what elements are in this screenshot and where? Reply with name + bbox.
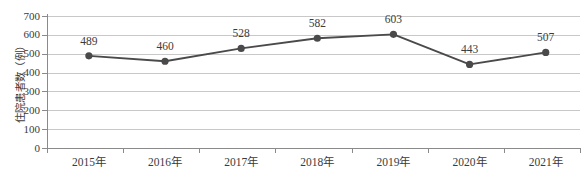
y-tick-200 (42, 110, 48, 111)
x-axis-label-2021年: 2021年 (511, 156, 581, 169)
x-tick-6 (504, 148, 505, 153)
gridline-0 (47, 148, 580, 149)
y-tick-0 (42, 148, 48, 149)
line-chart: 住院患者数（例） 7006005004003002001000 2015年201… (0, 0, 587, 184)
y-tick-600 (42, 35, 48, 36)
gridline-300 (47, 91, 580, 92)
y-tick-label-400: 400 (6, 67, 40, 78)
x-axis-label-2020年: 2020年 (435, 156, 505, 169)
data-label-2016年: 460 (135, 40, 195, 52)
y-tick-100 (42, 129, 48, 130)
x-axis-label-2019年: 2019年 (358, 156, 428, 169)
y-tick-label-100: 100 (6, 124, 40, 135)
data-label-2020年: 443 (440, 43, 500, 55)
y-tick-label-500: 500 (6, 48, 40, 59)
data-label-2021年: 507 (516, 31, 576, 43)
x-tick-2 (199, 148, 200, 153)
y-tick-label-200: 200 (6, 105, 40, 116)
x-axis-label-2017年: 2017年 (206, 156, 276, 169)
y-axis-tick-labels: 7006005004003002001000 (0, 0, 40, 184)
gridline-400 (47, 73, 580, 74)
plot-area (47, 16, 580, 148)
x-tick-3 (275, 148, 276, 153)
data-label-2017年: 528 (211, 27, 271, 39)
x-tick-7 (580, 148, 581, 153)
y-tick-label-0: 0 (6, 143, 40, 154)
x-tick-4 (352, 148, 353, 153)
data-label-2015年: 489 (59, 35, 119, 47)
data-label-2019年: 603 (363, 13, 423, 25)
x-axis-label-2016年: 2016年 (130, 156, 200, 169)
y-tick-label-600: 600 (6, 29, 40, 40)
gridline-200 (47, 110, 580, 111)
y-tick-label-300: 300 (6, 86, 40, 97)
x-axis-label-2015年: 2015年 (54, 156, 124, 169)
y-tick-500 (42, 54, 48, 55)
y-tick-400 (42, 73, 48, 74)
y-tick-label-700: 700 (6, 11, 40, 22)
gridline-100 (47, 129, 580, 130)
x-tick-5 (428, 148, 429, 153)
y-tick-700 (42, 16, 48, 17)
y-tick-300 (42, 91, 48, 92)
gridline-600 (47, 35, 580, 36)
data-label-2018年: 582 (287, 17, 347, 29)
x-axis-label-2018年: 2018年 (282, 156, 352, 169)
x-tick-1 (123, 148, 124, 153)
gridline-500 (47, 54, 580, 55)
